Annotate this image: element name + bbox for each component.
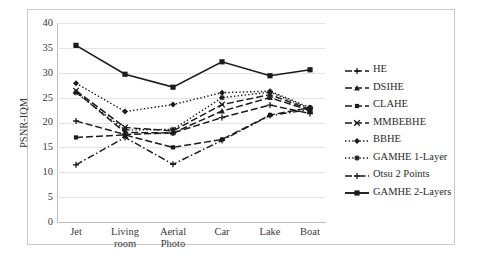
data-point [267, 102, 273, 108]
x-tick-label: Living room [99, 226, 151, 249]
y-axis-title: PSNR-IQM [18, 98, 29, 148]
data-point [73, 162, 79, 168]
data-point [267, 73, 272, 78]
legend-swatch-he [344, 63, 370, 75]
legend-swatch-clahe [344, 98, 370, 110]
legend-label: MMBEBHE [373, 116, 426, 127]
data-point [170, 102, 176, 108]
y-tick: 0 [19, 217, 53, 228]
data-point [307, 67, 312, 72]
data-point [170, 85, 175, 90]
data-point [219, 108, 225, 113]
data-point [73, 90, 79, 96]
legend-swatch-gamhe-1-layer [344, 150, 370, 162]
legend-item-he[interactable]: HE [344, 60, 456, 78]
series-line-gamhe-2-layers [76, 45, 310, 87]
legend-swatch-bbhe [344, 133, 370, 145]
legend-label: GAMHE 1-Layer [373, 151, 447, 162]
data-point [171, 145, 175, 149]
y-tick: 30 [19, 68, 53, 79]
data-point [219, 90, 225, 96]
chart-screenshot: 40 35 30 25 20 15 10 5 0 PSNR-IQM Jet Li… [0, 0, 478, 276]
series-line-dsihe [76, 92, 310, 133]
x-axis-ticks: Jet Living room Aerial Photo Car Lake Bo… [57, 226, 325, 260]
x-axis-line [57, 222, 326, 223]
legend-item-dsihe[interactable]: DSIHE [344, 78, 456, 96]
series-group [73, 43, 313, 168]
legend-item-otsu-2-points[interactable]: Otsu 2 Points [344, 165, 456, 183]
legend-label: CLAHE [373, 98, 408, 109]
legend-swatch-otsu-2-points [344, 168, 370, 180]
y-tick: 40 [19, 18, 53, 29]
y-tick: 5 [19, 192, 53, 203]
data-point [219, 115, 225, 121]
legend-swatch-mmbebhe [344, 115, 370, 127]
legend-swatch-gamhe-2-layers [344, 185, 370, 197]
legend-label: DSIHE [373, 81, 404, 92]
legend-item-clahe[interactable]: CLAHE [344, 95, 456, 113]
x-tick-label: Boat [284, 226, 336, 238]
x-tick-label: Car [196, 226, 248, 238]
series-line-mmbebhe [76, 91, 310, 131]
series-layer [57, 23, 325, 222]
y-tick: 10 [19, 167, 53, 178]
data-point [219, 95, 225, 101]
legend-label: Otsu 2 Points [373, 168, 430, 179]
data-point [170, 161, 176, 167]
series-line-bbhe [76, 83, 310, 111]
data-point [73, 118, 79, 124]
data-point [122, 109, 128, 115]
legend-swatch-dsihe [344, 80, 370, 92]
y-tick: 35 [19, 43, 53, 54]
x-tick-label: Jet [50, 226, 102, 238]
legend-item-mmbebhe[interactable]: MMBEBHE [344, 113, 456, 131]
data-point [73, 43, 78, 48]
legend-label: HE [373, 63, 387, 74]
data-point [267, 89, 273, 95]
data-point [73, 80, 79, 86]
series-line-clahe [76, 108, 310, 148]
data-point [122, 72, 127, 77]
x-tick-label: Aerial Photo [147, 226, 199, 249]
legend-item-gamhe-2-layers[interactable]: GAMHE 2-Layers [344, 183, 456, 201]
data-point [74, 135, 78, 139]
chart-legend: HE DSIHE CLAHE MMBEBHE BBHE GAMHE 1-Laye… [344, 60, 456, 200]
data-point [219, 59, 224, 64]
legend-label: BBHE [373, 133, 401, 144]
data-point [170, 127, 176, 133]
legend-label: GAMHE 2-Layers [373, 186, 451, 197]
legend-item-bbhe[interactable]: BBHE [344, 130, 456, 148]
plot-area [57, 23, 325, 222]
data-point [122, 127, 128, 133]
legend-item-gamhe-1-layer[interactable]: GAMHE 1-Layer [344, 148, 456, 166]
